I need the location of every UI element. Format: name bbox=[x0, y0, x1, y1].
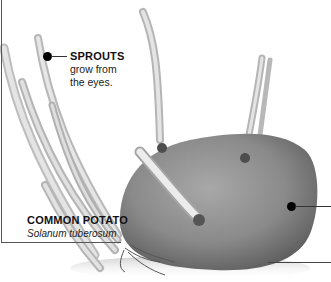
sprouts-caption-line2: the eyes. bbox=[70, 76, 113, 89]
infographic-panel: SPROUTS grow from the eyes. COMMON POTAT… bbox=[0, 0, 331, 282]
eye bbox=[157, 143, 167, 153]
sprouts-title: SPROUTS bbox=[70, 50, 125, 62]
eye bbox=[193, 214, 205, 226]
potato-leader-line bbox=[295, 206, 331, 207]
potato-title: COMMON POTATO bbox=[27, 214, 128, 226]
potato-photo bbox=[0, 0, 331, 282]
frame-line-left bbox=[1, 0, 2, 243]
sprouts-leader-line bbox=[51, 56, 67, 57]
potato-scientific-name: Solanum tuberosum bbox=[27, 228, 117, 239]
frame-line-bottom-right bbox=[268, 262, 331, 263]
potato-body bbox=[120, 134, 318, 271]
sprouts-caption-line1: grow from bbox=[70, 63, 117, 76]
eye bbox=[240, 153, 250, 163]
eye bbox=[293, 242, 299, 248]
frame-line-bottom bbox=[1, 242, 121, 243]
